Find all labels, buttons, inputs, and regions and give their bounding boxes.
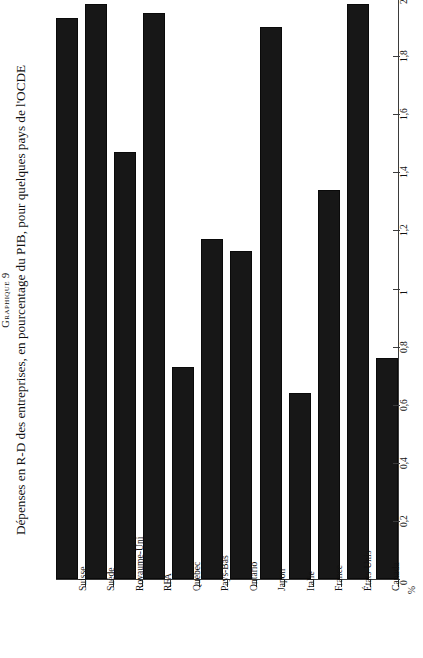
x-axis-tick-label: Japon [276,569,287,591]
y-axis-tick-label: 0,6 [399,391,409,411]
chart-caption-title: Dépenses en R-D des entreprises, en pour… [13,0,30,600]
y-axis-tick-label: 0,4 [399,449,409,469]
x-axis-tick-label: Canada [390,562,401,591]
bar-slot [143,0,165,579]
x-axis-tick-label: Pays-Bas [219,555,230,591]
bar-slot [289,0,311,579]
bar [289,393,311,579]
y-axis-tick-label: 2 [399,0,409,4]
y-axis-tick-label: 1 [399,275,409,295]
bar [143,13,165,579]
bar [56,18,78,579]
plot-area [56,0,398,579]
chart-caption-label: Graphique 9 [0,0,12,600]
bar-slot [376,0,398,579]
bar [85,4,107,579]
chart-figure: Graphique 9 Dépenses en R-D des entrepri… [0,0,423,658]
bar-slot [56,0,78,579]
bar [347,4,369,579]
bar [260,27,282,579]
bar-slot [260,0,282,579]
x-axis-tick-label: RFA [162,573,173,591]
y-axis-tick-label: 1,2 [399,216,409,236]
x-axis-tick-label: Ontario [248,562,259,591]
bar-slot [172,0,194,579]
bar [318,190,340,579]
x-axis-tick-label: Suède [105,568,116,591]
bar-slot [114,0,136,579]
bar-slot [201,0,223,579]
bar [114,152,136,579]
bar [230,251,252,579]
bar [376,358,398,579]
x-axis-tick-label: France [333,565,344,591]
x-axis-tick-label: Italie [305,571,316,591]
y-axis-tick-label: 1,4 [399,158,409,178]
y-axis-unit-label: % [406,586,417,594]
bar [172,367,194,579]
y-axis-tick-label: 1,8 [399,42,409,62]
y-axis-tick-label: 0,8 [399,333,409,353]
y-axis-tick-label: 0,2 [399,507,409,527]
bar-slot [347,0,369,579]
bar-slot [318,0,340,579]
bar-slot [230,0,252,579]
chart-caption: Graphique 9 Dépenses en R-D des entrepri… [0,0,33,600]
x-axis-tick-label: États-Unis [362,550,373,591]
y-axis-tick-label: 1,6 [399,100,409,120]
bar-slot [85,0,107,579]
x-axis-tick-label: Suisse [77,566,88,591]
x-axis-tick-label: Royaume-Uni [134,537,145,591]
bar [201,239,223,579]
x-axis-tick-label: Québec [191,562,202,591]
bar-series [56,0,398,579]
